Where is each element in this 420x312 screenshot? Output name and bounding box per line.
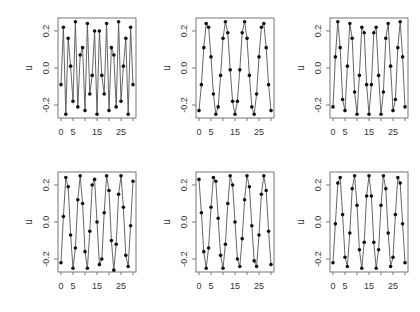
data-point (238, 265, 242, 269)
data-point (262, 22, 266, 26)
data-point (243, 20, 247, 24)
data-point (95, 220, 99, 224)
y-axis-label: u (161, 65, 172, 71)
data-point (86, 266, 90, 270)
data-point (236, 100, 240, 104)
data-line (333, 176, 405, 269)
data-point (71, 266, 75, 270)
data-point (360, 25, 364, 29)
data-point (346, 265, 350, 269)
data-point (248, 185, 252, 189)
x-tick-label: 0 (58, 127, 63, 137)
data-point (83, 250, 87, 254)
data-point (93, 29, 97, 33)
y-tick-label: 0.2 (41, 25, 51, 38)
data-point (377, 248, 381, 252)
y-tick-label: -0.2 (313, 251, 323, 267)
data-point (391, 109, 395, 113)
data-point (212, 92, 216, 96)
data-point (71, 100, 75, 104)
data-point (122, 64, 126, 68)
data-point (107, 189, 111, 193)
y-tick-label: 0.2 (313, 25, 323, 38)
data-point (396, 46, 400, 50)
x-tick-label: 5 (342, 127, 347, 137)
data-point (59, 83, 63, 87)
data-point (370, 83, 374, 87)
y-axis-label: u (295, 219, 306, 225)
data-point (384, 37, 388, 41)
data-point (102, 92, 106, 96)
data-point (81, 202, 85, 206)
x-tick-label: 0 (196, 281, 201, 291)
data-point (343, 255, 347, 259)
data-point (384, 187, 388, 191)
data-point (257, 55, 261, 59)
y-tick-label: 0.2 (41, 179, 51, 192)
data-point (76, 198, 80, 202)
data-point (338, 46, 342, 50)
data-point (107, 109, 111, 113)
panel-2: -0.20.00.2u051525 (161, 18, 274, 137)
data-point (88, 92, 92, 96)
figure: -0.20.00.2u051525-0.20.00.2u051525-0.20.… (0, 0, 420, 312)
data-point (334, 222, 338, 226)
data-point (269, 109, 273, 113)
x-tick-label: 25 (388, 281, 398, 291)
data-point (219, 254, 223, 258)
x-tick-label: 25 (116, 127, 126, 137)
data-point (126, 265, 130, 269)
data-point (233, 220, 237, 224)
data-point (202, 46, 206, 50)
data-point (90, 74, 94, 78)
data-point (214, 112, 218, 116)
y-axis-label: u (23, 65, 34, 71)
data-point (374, 266, 378, 270)
data-point (69, 64, 73, 68)
data-point (59, 261, 63, 265)
data-point (403, 261, 407, 265)
x-tick-label: 0 (330, 127, 335, 137)
data-point (264, 189, 268, 193)
data-point (202, 250, 206, 254)
x-tick-label: 15 (364, 127, 374, 137)
data-point (355, 204, 359, 208)
data-point (197, 109, 201, 113)
data-point (386, 22, 390, 26)
data-point (245, 37, 249, 41)
data-point (66, 185, 70, 189)
y-tick-label: 0.2 (313, 179, 323, 192)
data-point (250, 105, 254, 109)
y-axis-label: u (295, 65, 306, 71)
data-point (245, 174, 249, 178)
y-tick-label: 0.0 (313, 216, 323, 229)
data-point (100, 257, 104, 261)
data-point (331, 105, 335, 109)
data-point (114, 105, 118, 109)
data-point (374, 25, 378, 29)
data-point (365, 194, 369, 198)
data-point (226, 202, 230, 206)
data-point (398, 181, 402, 185)
data-point (69, 233, 73, 237)
data-point (389, 64, 393, 68)
data-point (110, 239, 114, 243)
data-point (221, 266, 225, 270)
data-point (204, 22, 208, 26)
data-point (200, 83, 204, 87)
y-tick-label: -0.2 (313, 97, 323, 113)
y-tick-label: 0.0 (41, 216, 51, 229)
y-axis-label: u (23, 219, 34, 225)
data-point (64, 112, 68, 116)
x-tick-label: 15 (230, 127, 240, 137)
data-point (367, 112, 371, 116)
data-point (252, 112, 256, 116)
data-point (362, 241, 366, 245)
x-tick-label: 15 (92, 281, 102, 291)
data-point (346, 64, 350, 68)
panel-6: -0.20.00.2u051525 (295, 172, 408, 291)
data-point (204, 266, 208, 270)
data-point (102, 211, 106, 215)
data-point (248, 74, 252, 78)
data-line (199, 22, 271, 115)
